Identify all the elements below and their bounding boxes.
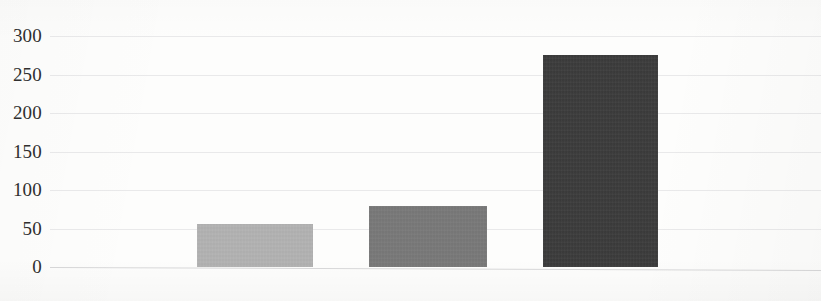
gridline-250 (50, 75, 821, 76)
y-tick-label-250: 250 (0, 65, 42, 84)
y-tick-label-150: 150 (0, 142, 42, 161)
bar-1 (197, 224, 313, 267)
y-tick-label-300: 300 (0, 26, 42, 45)
gridline-0 (50, 267, 821, 271)
y-tick-label-50: 50 (0, 219, 42, 238)
gridline-100 (50, 190, 821, 191)
gridline-200 (50, 113, 821, 114)
bar-2 (369, 206, 487, 267)
bar-3 (543, 55, 658, 267)
y-tick-label-0: 0 (0, 257, 42, 276)
y-tick-label-100: 100 (0, 180, 42, 199)
gridline-300 (50, 36, 821, 37)
y-tick-label-200: 200 (0, 103, 42, 122)
bar-chart-figure: 300250200150100500 (0, 0, 821, 301)
gridline-150 (50, 152, 821, 153)
